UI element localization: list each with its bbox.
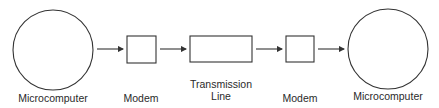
communication-diagram: Microcomputer Modem Transmission Line Mo… [0,0,439,108]
transmission-line-label-line1: Transmission [190,78,252,90]
modem-right-label: Modem [282,92,317,104]
modem-left-node [127,36,156,63]
transmission-line-node [190,36,252,62]
modem-right-node [286,36,314,62]
microcomputer-right-node [348,9,428,89]
modem-left-label: Modem [123,92,158,104]
transmission-line-label-line2: Line [211,90,231,102]
microcomputer-left-node [13,10,93,90]
microcomputer-right-label: Microcomputer [353,90,423,102]
microcomputer-left-label: Microcomputer [18,92,88,104]
